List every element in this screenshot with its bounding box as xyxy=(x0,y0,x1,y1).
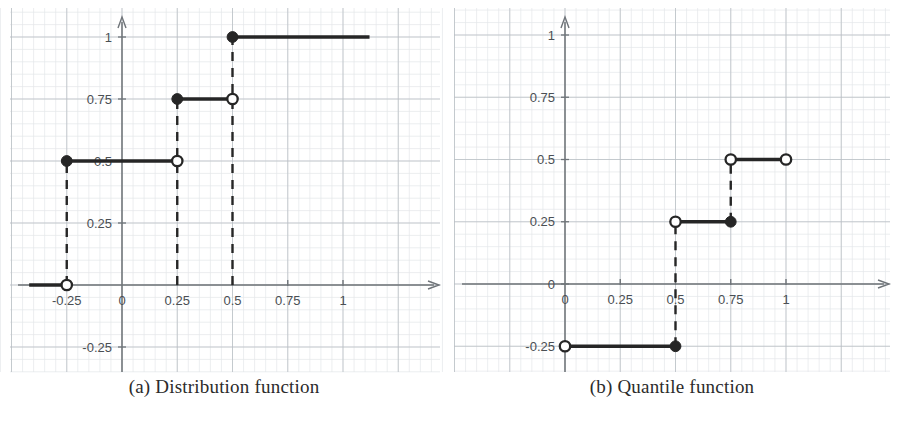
riser-group xyxy=(676,160,731,347)
caption-a: (a) Distribution function xyxy=(0,376,448,398)
x-tick-label: 0.75 xyxy=(275,293,300,308)
closed-endpoint-marker xyxy=(172,94,183,105)
y-tick-label: 0.5 xyxy=(537,152,555,167)
open-endpoint-marker xyxy=(560,341,570,351)
y-tick-label: -0.25 xyxy=(525,339,555,354)
closed-endpoint-marker xyxy=(61,156,72,167)
grid-major-group xyxy=(10,8,440,372)
x-tick-label: 0.25 xyxy=(608,292,633,307)
plot-b: 00.250.50.751-0.2500.250.50.751 xyxy=(448,0,896,375)
closed-endpoint-marker xyxy=(670,341,681,352)
plot-a: -0.2500.250.50.751-0.250.250.50.751 xyxy=(0,0,448,375)
y-tick-label: 0.75 xyxy=(530,90,555,105)
closed-endpoint-marker xyxy=(227,32,238,43)
x-tick-label: 1 xyxy=(782,292,789,307)
y-tick-label: 0.25 xyxy=(87,216,112,231)
x-tick-label: 0 xyxy=(118,293,125,308)
x-tick-label: 0.5 xyxy=(223,293,241,308)
grid-major-group xyxy=(454,8,896,372)
distribution-function-chart: -0.2500.250.50.751-0.250.250.50.751 xyxy=(0,0,448,375)
closed-endpoint-marker xyxy=(725,216,736,227)
y-tick-label: 0.75 xyxy=(87,92,112,107)
y-tick-label: 1 xyxy=(548,28,555,43)
figure-panels: -0.2500.250.50.751-0.250.250.50.751 (a) … xyxy=(0,0,897,429)
open-endpoint-marker xyxy=(172,156,182,166)
open-endpoint-marker xyxy=(62,280,72,290)
open-endpoint-marker xyxy=(726,154,736,164)
open-endpoint-marker xyxy=(227,94,237,104)
quantile-function-chart: 00.250.50.751-0.2500.250.50.751 xyxy=(448,0,896,375)
panel-a: -0.2500.250.50.751-0.250.250.50.751 (a) … xyxy=(0,0,448,429)
x-tick-label: 0 xyxy=(561,292,568,307)
y-tick-label: 1 xyxy=(105,30,112,45)
x-tick-label: -0.25 xyxy=(52,293,82,308)
y-tick-label: 0.25 xyxy=(530,214,555,229)
open-endpoint-marker xyxy=(670,217,680,227)
x-tick-label: 0.75 xyxy=(718,292,743,307)
x-tick-label: 1 xyxy=(339,293,346,308)
y-tick-label: -0.25 xyxy=(82,340,112,355)
panel-b: 00.250.50.751-0.2500.250.50.751 (b) Quan… xyxy=(448,0,896,429)
caption-b: (b) Quantile function xyxy=(448,376,896,398)
y-tick-label: 0 xyxy=(548,277,555,292)
x-tick-label: 0.25 xyxy=(165,293,190,308)
grid-minor-group xyxy=(454,8,890,372)
open-endpoint-marker xyxy=(781,154,791,164)
